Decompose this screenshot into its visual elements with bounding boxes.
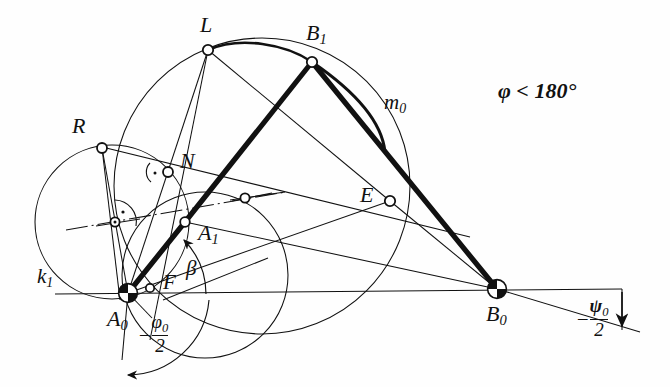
point-marker-F bbox=[146, 284, 154, 292]
label-B0-sub: 0 bbox=[499, 312, 506, 328]
label-A0-sub: 0 bbox=[120, 317, 127, 333]
point-marker-R bbox=[97, 143, 107, 153]
label-L: L bbox=[200, 14, 212, 36]
label-phi-half: – φ0 2 bbox=[140, 312, 168, 356]
phi-minus-sign: – bbox=[140, 324, 152, 343]
label-beta: β bbox=[186, 258, 196, 279]
point-marker-M2 bbox=[240, 193, 249, 202]
label-B0-base: B bbox=[486, 301, 499, 326]
psi-minus-sign: – bbox=[578, 308, 590, 327]
right-angle-marker-N bbox=[146, 163, 156, 182]
label-condition-phi-lt-180: φ < 180° bbox=[498, 80, 576, 102]
label-m0-sub: 0 bbox=[399, 101, 406, 116]
psi-denominator: 2 bbox=[590, 319, 609, 340]
label-R: R bbox=[72, 115, 85, 137]
label-B1-base: B bbox=[306, 20, 319, 45]
point-marker-B1 bbox=[307, 57, 317, 67]
label-A1-sub: 1 bbox=[211, 231, 218, 247]
arc-L-B1 bbox=[208, 43, 312, 62]
label-A0: A0 bbox=[107, 308, 128, 333]
point-marker-N bbox=[163, 167, 173, 177]
point-marker-A1 bbox=[180, 217, 190, 227]
label-k1-base: k bbox=[37, 264, 46, 288]
tick-through-M2 bbox=[232, 193, 272, 201]
phi-numerator: φ0 bbox=[152, 312, 169, 335]
psi-numerator: ψ0 bbox=[590, 296, 609, 319]
point-marker-L bbox=[203, 45, 213, 55]
label-A1: A1 bbox=[198, 222, 219, 247]
label-k1-sub: 1 bbox=[46, 275, 53, 290]
label-psi-half: – ψ0 2 bbox=[578, 296, 608, 340]
label-A1-base: A bbox=[198, 220, 211, 245]
construction-drawing bbox=[0, 0, 670, 387]
label-F: F bbox=[163, 272, 176, 293]
label-k1: k1 bbox=[37, 266, 53, 290]
diagram-canvas: L B1 R N A1 E F β m0 k1 A0 B0 φ < 180° –… bbox=[0, 0, 670, 387]
link-A0-A1-B1 bbox=[128, 62, 312, 293]
label-B1-sub: 1 bbox=[319, 31, 326, 47]
label-B1: B1 bbox=[306, 22, 327, 47]
label-m0: m0 bbox=[384, 92, 406, 116]
point-marker-B0 bbox=[488, 280, 507, 299]
label-A0-base: A bbox=[107, 306, 120, 331]
phi-denominator: 2 bbox=[152, 335, 169, 356]
point-marker-M1 bbox=[110, 217, 119, 226]
label-E: E bbox=[360, 184, 373, 206]
point-marker-A0 bbox=[119, 284, 138, 303]
point-marker-E bbox=[385, 196, 395, 206]
label-m0-base: m bbox=[384, 90, 399, 114]
label-N: N bbox=[180, 150, 195, 172]
label-B0: B0 bbox=[486, 303, 507, 328]
